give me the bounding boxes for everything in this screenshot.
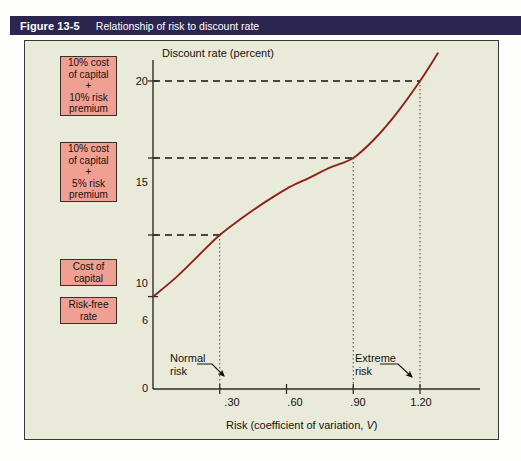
callout-line: of capital	[68, 69, 108, 81]
x-tick-label-060: .60	[275, 396, 315, 408]
figure-title: Relationship of risk to discount rate	[96, 20, 259, 32]
callout-10pct-cost-plus-5pct-risk: 10% cost of capital + 5% risk premium	[60, 142, 117, 202]
callout-line: 10% cost	[68, 143, 109, 155]
y-axis-title: Discount rate (percent)	[162, 47, 274, 59]
callout-10pct-cost-plus-10pct-risk: 10% cost of capital + 10% risk premium	[60, 56, 117, 116]
figure-root: Figure 13-5 Relationship of risk to disc…	[0, 0, 521, 461]
callout-line: +	[86, 166, 92, 178]
x-axis-title: Risk (coefficient of variation, V)	[226, 419, 377, 431]
callout-line: Cost of	[73, 261, 105, 273]
x-tick-label-120: 1.20	[401, 396, 441, 408]
callout-risk-free-rate: Risk-free rate	[60, 297, 117, 324]
y-tick-label-15: 15	[122, 176, 148, 188]
callout-line: Risk-free	[68, 299, 108, 311]
callout-line: of capital	[68, 155, 108, 167]
callout-line: rate	[80, 311, 97, 323]
y-tick-label-20: 20	[122, 75, 148, 87]
x-tick-label-090: .90	[338, 396, 378, 408]
y-tick-label-10: 10	[122, 277, 148, 289]
callout-line: 5% risk	[72, 178, 105, 190]
annotation-normal-risk: Normal risk	[170, 352, 205, 377]
figure-number: Figure 13-5	[20, 20, 80, 32]
figure-banner: Figure 13-5 Relationship of risk to disc…	[10, 16, 521, 35]
callout-line: premium	[69, 189, 108, 201]
annotation-line: Extreme	[355, 352, 396, 365]
y-tick-label-0: 0	[122, 382, 148, 394]
callout-cost-of-capital: Cost of capital	[60, 259, 117, 286]
x-axis-title-text: Risk (coefficient of variation, V)	[226, 419, 377, 431]
callout-line: capital	[74, 273, 103, 285]
annotation-extreme-risk: Extreme risk	[355, 352, 396, 377]
annotation-line: Normal	[170, 352, 205, 365]
annotation-line: risk	[170, 365, 205, 378]
callout-line: +	[86, 80, 92, 92]
x-tick-label-030: .30	[212, 396, 252, 408]
callout-line: 10% risk	[69, 92, 107, 104]
callout-line: premium	[69, 103, 108, 115]
annotation-line: risk	[355, 365, 396, 378]
callout-line: 10% cost	[68, 57, 109, 69]
y-tick-label-6: 6	[122, 314, 148, 326]
